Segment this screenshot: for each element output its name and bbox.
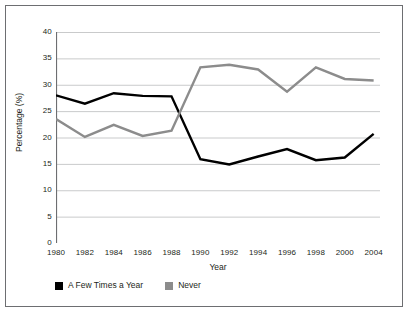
y-tick-label: 25 [30,107,52,115]
y-axis-tick-labels: 0510152025303540 [28,32,52,243]
y-tick-label: 30 [30,81,52,89]
x-tick-label: 2000 [330,248,360,257]
legend-item: Never [165,281,201,290]
y-tick-label: 20 [30,134,52,142]
x-tick-label: 1992 [214,248,244,257]
x-tick-label: 1998 [301,248,331,257]
y-tick-label: 5 [30,213,52,221]
y-tick-label: 0 [30,239,52,247]
legend-swatch-icon [55,282,63,290]
x-tick-label: 1994 [243,248,273,257]
chart-svg [56,32,380,243]
y-tick-label: 35 [30,54,52,62]
y-tick-label: 10 [30,186,52,194]
x-tick-label: 1996 [272,248,302,257]
x-tick-label: 1990 [185,248,215,257]
x-tick-label: 1988 [157,248,187,257]
legend-swatch-icon [165,282,173,290]
legend-label: Never [178,281,201,290]
chart-figure: 0510152025303540 19801982198419861988199… [0,0,409,313]
chart-legend: A Few Times a YearNever [55,281,201,290]
x-tick-label: 1980 [41,248,71,257]
legend-item: A Few Times a Year [55,281,143,290]
legend-label: A Few Times a Year [68,281,143,290]
plot-area [56,32,380,243]
x-tick-label: 2004 [359,248,389,257]
y-axis-title: Percentage (%) [15,77,24,169]
x-axis-tick-labels: 1980198219841986198819901992199419961998… [56,248,396,260]
x-tick-label: 1986 [128,248,158,257]
x-tick-label: 1982 [70,248,100,257]
x-axis-title: Year [56,263,380,272]
y-tick-label: 40 [30,28,52,36]
y-tick-label: 15 [30,160,52,168]
x-tick-label: 1984 [99,248,129,257]
series-line-1 [56,65,374,137]
